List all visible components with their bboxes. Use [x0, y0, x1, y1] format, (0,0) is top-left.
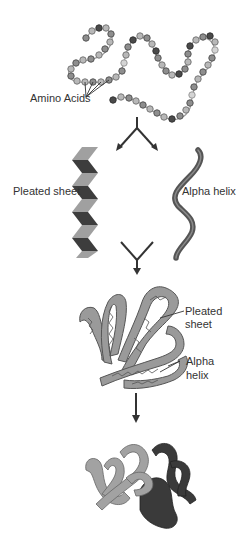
tertiary-structure-shape — [80, 287, 188, 389]
protein-structure-diagram: Amino Acids Pleated sheet Alpha helix Pl… — [0, 0, 242, 543]
tertiary-alpha-label-line2: helix — [186, 369, 209, 382]
down-arrow-icon — [132, 393, 140, 423]
pleated-sheet-label: Pleated sheet — [13, 185, 80, 198]
pleated-sheet-shape — [72, 147, 98, 258]
quaternary-structure-shape — [86, 443, 196, 528]
alpha-helix-shape — [175, 150, 201, 258]
split-arrow-icon — [116, 117, 158, 151]
amino-acids-label: Amino Acids — [30, 92, 91, 105]
alpha-helix-label: Alpha helix — [182, 185, 236, 198]
tertiary-pleated-label-line1: Pleated — [185, 305, 222, 318]
tertiary-pleated-label-line2: sheet — [185, 318, 212, 331]
beads — [68, 25, 218, 122]
tertiary-alpha-label-line1: Alpha — [186, 355, 214, 368]
merge-arrow-icon — [121, 242, 153, 275]
amino-acid-chain — [68, 25, 218, 122]
